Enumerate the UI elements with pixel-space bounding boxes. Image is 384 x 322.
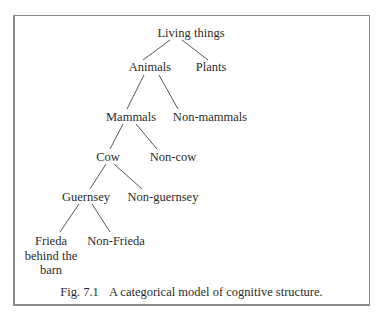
figure-number: Fig. 7.1 <box>60 285 99 299</box>
edge-animals-mammals <box>127 75 144 109</box>
node-frieda-line-2: behind the <box>21 249 81 264</box>
edge-mammals-noncow <box>136 124 157 149</box>
edge-animals-nonmammals <box>159 75 178 109</box>
node-plants: Plants <box>196 60 227 74</box>
node-frieda-behind-the-barn: Frieda behind the barn <box>21 234 81 278</box>
node-guernsey: Guernsey <box>62 190 110 204</box>
edge-guernsey-frieda <box>60 204 79 232</box>
node-frieda-line-1: Frieda <box>21 234 81 249</box>
node-non-cow: Non-cow <box>150 150 197 164</box>
node-non-mammals: Non-mammals <box>173 110 247 124</box>
node-non-guernsey: Non-guernsey <box>128 190 199 204</box>
figure-caption: Fig. 7.1A categorical model of cognitive… <box>13 285 370 300</box>
node-cow: Cow <box>96 150 120 164</box>
edge-living-animals <box>143 40 170 60</box>
edge-cow-guernsey <box>90 164 106 189</box>
node-living-things: Living things <box>157 26 224 40</box>
edge-mammals-cow <box>110 124 123 149</box>
node-mammals: Mammals <box>106 110 156 124</box>
node-animals: Animals <box>129 60 171 74</box>
edge-guernsey-nonfrieda <box>92 204 110 232</box>
edge-living-plants <box>182 40 208 60</box>
node-non-frieda: Non-Frieda <box>87 234 145 248</box>
figure-caption-text: A categorical model of cognitive structu… <box>109 285 323 299</box>
node-frieda-line-3: barn <box>21 263 81 278</box>
edge-cow-nonguernsey <box>114 164 142 189</box>
